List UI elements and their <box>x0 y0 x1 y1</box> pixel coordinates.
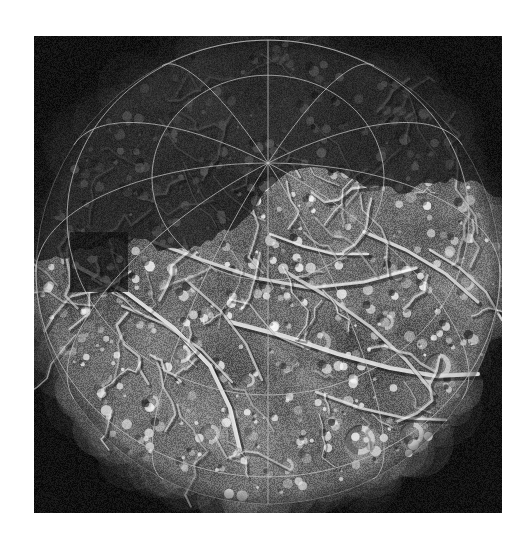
longitude-line-120 <box>268 123 462 164</box>
image-page: Grayscale image of a cratered, fractured… <box>0 0 524 552</box>
longitude-line-330 <box>152 163 268 479</box>
longitude-line-30 <box>268 163 384 479</box>
longitude-line-240 <box>74 123 268 164</box>
moon-image-plate <box>34 36 502 513</box>
coordinate-graticule-overlay <box>34 36 502 513</box>
graticule-lines <box>36 40 500 504</box>
